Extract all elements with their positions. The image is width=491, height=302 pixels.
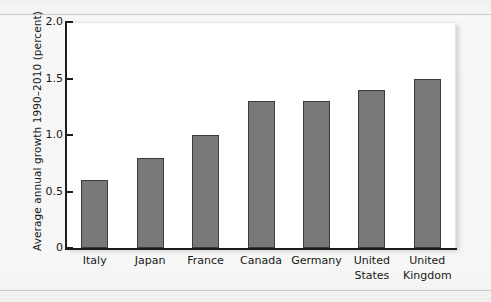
x-tick-label-line: United <box>390 254 464 269</box>
bar-united-states[interactable] <box>358 90 385 248</box>
bar-united-kingdom[interactable] <box>414 79 441 249</box>
x-axis-line <box>65 248 457 250</box>
bar-france[interactable] <box>192 135 219 248</box>
x-tick-label-line: Kingdom <box>390 269 464 284</box>
y-tick-label: 1.0 <box>46 128 64 142</box>
y-tick-label: 0 <box>56 241 63 255</box>
bar-chart-figure: Average annual growth 1990–2010 (percent… <box>0 0 491 302</box>
x-axis-tick-labels: ItalyJapanFranceCanadaGermanyUnitedState… <box>67 254 455 298</box>
y-tick-label: 2.0 <box>46 15 64 29</box>
bar-italy[interactable] <box>81 180 108 248</box>
bar-canada[interactable] <box>248 101 275 248</box>
bar-japan[interactable] <box>137 158 164 248</box>
x-tick-label-6: UnitedKingdom <box>390 254 464 283</box>
bar-germany[interactable] <box>303 101 330 248</box>
y-tick-label: 1.5 <box>46 72 64 86</box>
y-tick-label: 0.5 <box>46 185 64 199</box>
bars-group <box>67 22 455 248</box>
